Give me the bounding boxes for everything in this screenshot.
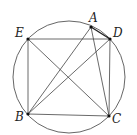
point-C xyxy=(107,114,110,117)
point-A xyxy=(89,25,92,28)
point-D xyxy=(108,37,111,40)
segment-AC xyxy=(91,27,109,116)
segment-DC xyxy=(109,39,110,116)
geometry-diagram: A B C D E xyxy=(0,0,137,135)
label-E: E xyxy=(14,26,24,40)
segment-BC xyxy=(28,114,109,116)
segment-AD xyxy=(91,27,110,39)
point-B xyxy=(26,112,29,115)
segment-BA xyxy=(28,27,91,114)
label-D: D xyxy=(112,26,123,40)
label-A: A xyxy=(88,11,98,25)
label-C: C xyxy=(112,112,121,126)
point-E xyxy=(26,37,29,40)
label-B: B xyxy=(14,110,24,124)
